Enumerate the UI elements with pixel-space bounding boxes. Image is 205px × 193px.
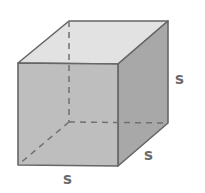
cube-figure: s s s (0, 0, 205, 193)
cube-front-face (18, 63, 118, 166)
label-width: s (63, 170, 72, 188)
label-height: s (175, 70, 184, 88)
label-depth: s (144, 146, 153, 164)
cube-diagram: s s s (0, 0, 205, 193)
